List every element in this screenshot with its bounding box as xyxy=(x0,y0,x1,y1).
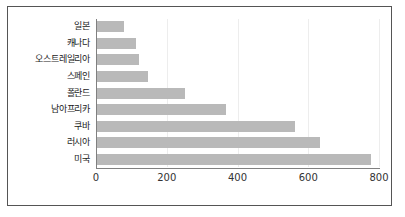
y-axis-label-4: 폴란드 xyxy=(8,88,94,99)
bar-row xyxy=(97,137,380,148)
x-tick-label-3: 600 xyxy=(299,172,318,183)
bar-7 xyxy=(97,137,320,148)
y-axis-label-7: 러시아 xyxy=(8,137,94,148)
x-tick-label-0: 0 xyxy=(93,172,99,183)
bar-2 xyxy=(97,54,139,65)
y-axis-label-0: 일본 xyxy=(8,21,94,32)
y-axis-label-2: 오스트레일리아 xyxy=(8,54,94,65)
x-axis-tick-labels: 0200400600800 xyxy=(96,172,379,188)
bar-row xyxy=(97,71,380,82)
y-axis-label-1: 캐나다 xyxy=(8,38,94,49)
bar-3 xyxy=(97,71,148,82)
bar-series xyxy=(97,21,380,165)
x-tick-label-1: 200 xyxy=(157,172,176,183)
bar-row xyxy=(97,21,380,32)
y-axis-category-labels: 일본 캐나다 오스트레일리아 스페인 폴란드 남아프리카 쿠바 러시아 미국 xyxy=(8,21,94,165)
y-axis-label-6: 쿠바 xyxy=(8,121,94,132)
bar-1 xyxy=(97,38,136,49)
bar-row xyxy=(97,154,380,165)
y-axis-label-5: 남아프리카 xyxy=(8,104,94,115)
bar-4 xyxy=(97,88,185,99)
x-tick-label-2: 400 xyxy=(228,172,247,183)
plot-area: 일본 캐나다 오스트레일리아 스페인 폴란드 남아프리카 쿠바 러시아 미국 0… xyxy=(8,7,391,205)
bar-6 xyxy=(97,121,295,132)
y-axis-label-3: 스페인 xyxy=(8,71,94,82)
bar-0 xyxy=(97,21,124,32)
y-axis-label-8: 미국 xyxy=(8,154,94,165)
chart-frame: 일본 캐나다 오스트레일리아 스페인 폴란드 남아프리카 쿠바 러시아 미국 0… xyxy=(7,6,392,206)
bar-row xyxy=(97,38,380,49)
bar-row xyxy=(97,54,380,65)
x-axis-line xyxy=(96,168,380,169)
bar-8 xyxy=(97,154,371,165)
bar-row xyxy=(97,121,380,132)
bar-5 xyxy=(97,104,226,115)
bar-row xyxy=(97,88,380,99)
bar-row xyxy=(97,104,380,115)
x-tick-label-4: 800 xyxy=(369,172,388,183)
